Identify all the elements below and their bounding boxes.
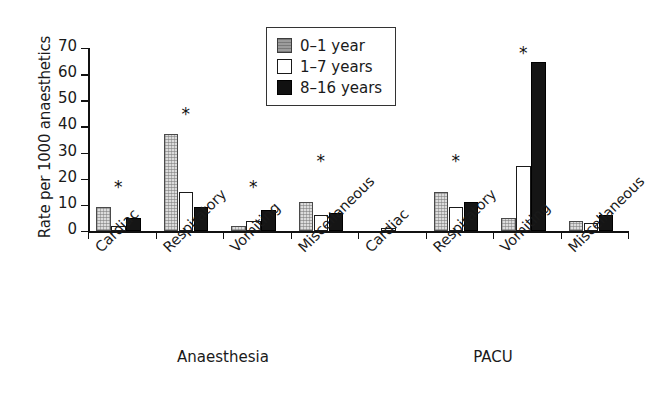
x-axis-tick [426,231,427,239]
y-axis-tick-label: 20 [47,168,77,186]
y-axis-tick: 10 [81,205,88,206]
legend-swatch-icon [277,38,292,53]
legend-item: 0–1 year [277,35,382,56]
legend-item-label: 1–7 years [300,58,373,76]
y-axis-tick: 20 [81,179,88,180]
x-axis-group-label: PACU [473,348,513,366]
y-axis-tick: 40 [81,126,88,127]
y-axis-tick-label: 70 [47,37,77,55]
y-axis-tick: 60 [81,74,88,75]
x-axis-tick [88,231,89,239]
legend-item-label: 0–1 year [300,37,365,55]
x-axis-tick [628,231,629,239]
y-axis-tick-label: 40 [47,115,77,133]
y-axis-tick: 0 [81,231,88,232]
x-axis-tick [358,231,359,239]
significance-asterisk: * [182,106,191,123]
legend-swatch-icon [277,80,292,95]
significance-asterisk: * [249,179,258,196]
legend-item: 8–16 years [277,77,382,98]
legend-swatch-icon [277,59,292,74]
x-axis-tick [493,231,494,239]
y-axis-tick-label: 10 [47,194,77,212]
bar-chart-figure: Rate per 1000 anaesthetics 0102030405060… [0,0,660,393]
x-axis-tick [291,231,292,239]
x-axis-group-label: Anaesthesia [177,348,269,366]
y-axis-tick: 50 [81,100,88,101]
significance-asterisk: * [317,153,326,170]
significance-asterisk: * [519,45,528,62]
y-axis-line [88,48,90,231]
y-axis-tick-label: 30 [47,142,77,160]
y-axis-tick-label: 0 [47,220,77,238]
legend: 0–1 year1–7 years8–16 years [266,27,396,106]
x-axis-tick [223,231,224,239]
legend-item: 1–7 years [277,56,382,77]
x-axis-tick [156,231,157,239]
y-axis-tick: 30 [81,153,88,154]
legend-item-label: 8–16 years [300,79,382,97]
x-axis-tick [561,231,562,239]
significance-asterisk: * [114,179,123,196]
significance-asterisk: * [452,153,461,170]
y-axis-tick-label: 60 [47,63,77,81]
y-axis-tick-label: 50 [47,89,77,107]
y-axis-tick: 70 [81,48,88,49]
bar [164,134,179,231]
bar [434,192,449,231]
